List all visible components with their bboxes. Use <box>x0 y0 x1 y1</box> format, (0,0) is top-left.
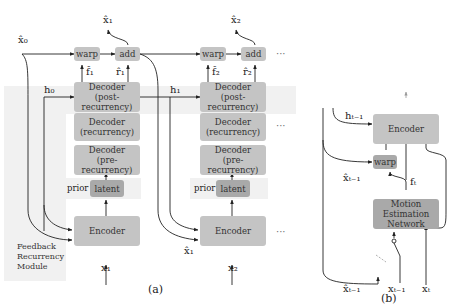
flow-ft: fₜ <box>410 176 416 187</box>
prior-label-2: prior <box>194 183 215 193</box>
decoder-rec-1-sub: (recurrency) <box>80 127 134 137</box>
hidden-h1: h₁ <box>170 84 180 95</box>
decoder-rec-2: Decoder (recurrency) <box>200 113 266 141</box>
decoder-pre-2-sub: (pre-recurrency) <box>200 155 266 175</box>
warp-box-2: warp <box>200 47 226 61</box>
ellipsis-mid: ··· <box>276 120 286 131</box>
latent-box-1: latent <box>90 180 124 197</box>
flow-f2: f̂₂ <box>212 66 220 77</box>
input-frame-b: xₜ <box>422 283 430 294</box>
encoder-box-2: Encoder <box>200 216 266 246</box>
prior-label-1: prior <box>67 183 88 193</box>
warp-box-1: warp <box>74 47 100 61</box>
prev-recon-x1: x̂₁ <box>184 245 194 256</box>
input-prev-recon-b: x̂ₜ₋₁ <box>343 283 360 294</box>
caption-b-visible: (b) <box>381 292 397 305</box>
decoder-post-2-title: Decoder <box>215 82 251 92</box>
warp-box-b: warp <box>373 155 397 169</box>
residual-r2: r̂₂ <box>243 66 252 77</box>
output-x1: x̂₁ <box>103 14 113 25</box>
caption-a: (a) <box>148 283 163 296</box>
prev-recon-warp-b: x̂ₜ₋₁ <box>343 172 360 183</box>
encoder-box-b: Encoder <box>373 114 439 144</box>
decoder-post-1: Decoder (post-recurrency) <box>74 82 140 112</box>
decoder-rec-1: Decoder (recurrency) <box>74 113 140 141</box>
ellipsis-top: ··· <box>276 48 286 59</box>
decoder-pre-1-sub: (pre-recurrency) <box>74 155 140 175</box>
decoder-rec-1-title: Decoder <box>89 117 125 127</box>
decoder-post-2: Decoder (post-recurrency) <box>200 82 266 112</box>
add-box-2: add <box>241 47 266 61</box>
decoder-post-1-sub: (post-recurrency) <box>74 92 140 112</box>
residual-r1: r̂₁ <box>116 66 125 77</box>
flow-f1: f̂₁ <box>86 66 94 77</box>
hidden-h0: h₀ <box>44 84 54 95</box>
decoder-post-2-sub: (post-recurrency) <box>200 92 266 112</box>
decoder-pre-1-title: Decoder <box>89 145 125 155</box>
decoder-pre-2-title: Decoder <box>215 145 251 155</box>
add-box-1: add <box>115 47 140 61</box>
encoder-box-1: Encoder <box>74 216 140 246</box>
ellipsis-bottom: ··· <box>276 226 286 237</box>
decoder-pre-1: Decoder (pre-recurrency) <box>74 145 140 175</box>
input-x1: x₁ <box>101 262 111 273</box>
input-x2: x₂ <box>228 262 238 273</box>
hidden-ht-1: hₜ₋₁ <box>345 110 363 121</box>
motion-estimation-network: Motion Estimation Network <box>373 199 439 229</box>
decoder-rec-2-title: Decoder <box>215 117 251 127</box>
decoder-rec-2-sub: (recurrency) <box>206 127 260 137</box>
prev-recon-x0: x̂₀ <box>18 34 28 45</box>
latent-box-2: latent <box>216 180 250 197</box>
decoder-pre-2: Decoder (pre-recurrency) <box>200 145 266 175</box>
output-x2: x̂₂ <box>231 14 241 25</box>
feedback-module-label: Feedback Recurrency Module <box>17 242 64 272</box>
decoder-post-1-title: Decoder <box>89 82 125 92</box>
